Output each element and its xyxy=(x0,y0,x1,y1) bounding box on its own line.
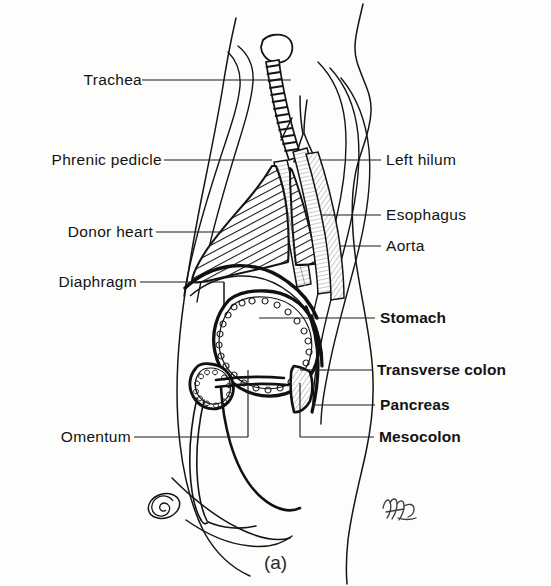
label-aorta-text: Aorta xyxy=(386,237,425,254)
label-left-hilum-text: Left hilum xyxy=(386,151,456,168)
label-pancreas: Pancreas xyxy=(380,397,450,413)
omentum-shape xyxy=(190,398,256,528)
label-aorta: Aorta xyxy=(386,238,425,254)
label-left-hilum: Left hilum xyxy=(386,152,456,168)
label-trachea: Trachea xyxy=(0,72,142,88)
label-diaphragm: Diaphragm xyxy=(0,274,137,290)
label-mesocolon-text: Mesocolon xyxy=(379,428,461,445)
label-pancreas-text: Pancreas xyxy=(380,396,450,413)
donor-heart-shape xyxy=(192,166,317,282)
pancreas-shape xyxy=(291,366,313,412)
label-donor-heart: Donor heart xyxy=(0,224,153,240)
label-mesocolon: Mesocolon xyxy=(379,429,461,445)
label-stomach-text: Stomach xyxy=(380,309,446,326)
label-phrenic-pedicle-text: Phrenic pedicle xyxy=(52,151,162,168)
label-omentum-text: Omentum xyxy=(61,428,131,445)
label-trachea-text: Trachea xyxy=(84,71,142,88)
anatomical-figure: Trachea Phrenic pedicle Donor heart Diap… xyxy=(0,0,551,586)
artist-signature xyxy=(383,499,416,520)
label-donor-heart-text: Donor heart xyxy=(68,223,153,240)
umbilicus-shape xyxy=(145,490,183,523)
label-esophagus: Esophagus xyxy=(386,207,466,223)
figure-caption: (a) xyxy=(0,552,551,574)
label-omentum: Omentum xyxy=(0,429,131,445)
trachea-shape xyxy=(261,35,301,160)
label-transverse-colon: Transverse colon xyxy=(377,362,506,378)
label-stomach: Stomach xyxy=(380,310,446,326)
label-phrenic-pedicle: Phrenic pedicle xyxy=(0,152,162,168)
figure-caption-text: (a) xyxy=(264,552,287,573)
label-transverse-colon-text: Transverse colon xyxy=(377,361,506,378)
label-esophagus-text: Esophagus xyxy=(386,206,466,223)
lower-abdominal-wall xyxy=(172,478,292,547)
label-diaphragm-text: Diaphragm xyxy=(58,273,137,290)
